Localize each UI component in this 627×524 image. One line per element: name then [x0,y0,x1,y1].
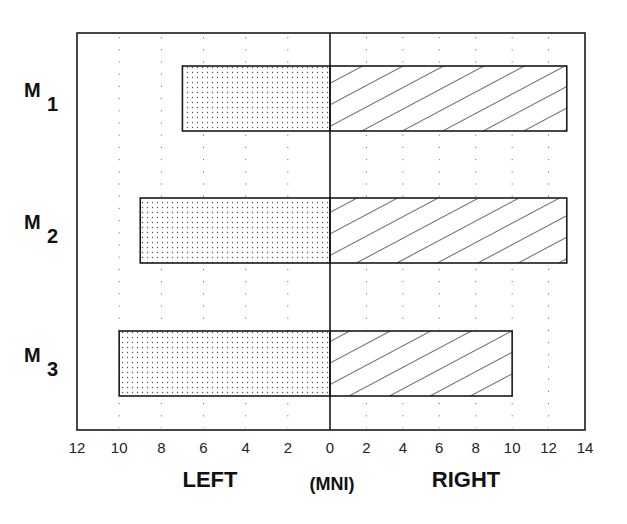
x-axis-ticks: 1210864202468101214 [69,439,594,456]
category-label: M [24,79,41,101]
x-label-left: LEFT [183,467,239,492]
bars [119,66,567,396]
x-tick-label: 4 [241,439,249,456]
category-subscript: 2 [47,225,58,247]
diverging-bar-chart: 1210864202468101214 M1M2M3 LEFT (MNI) RI… [0,0,627,524]
x-tick-label: 12 [540,439,557,456]
bar-right-m1 [330,66,567,131]
category-label: M [24,211,41,233]
x-tick-label: 0 [326,439,334,456]
bar-left-m1 [182,66,330,131]
bar-right-m3 [330,331,512,396]
x-tick-label: 6 [199,439,207,456]
category-subscript: 1 [47,93,58,115]
x-tick-label: 2 [362,439,370,456]
bar-right-m2 [330,198,567,263]
x-tick-label: 10 [111,439,128,456]
y-axis-categories: M1M2M3 [24,79,58,380]
x-tick-label: 14 [577,439,594,456]
x-tick-label: 8 [472,439,480,456]
bar-left-m2 [140,198,330,263]
x-tick-label: 10 [504,439,521,456]
x-tick-label: 2 [284,439,292,456]
x-tick-label: 6 [435,439,443,456]
x-tick-label: 4 [399,439,407,456]
x-label-unit: (MNI) [310,474,355,494]
x-tick-label: 8 [157,439,165,456]
bar-left-m3 [119,331,330,396]
x-label-right: RIGHT [432,467,501,492]
category-label: M [24,344,41,366]
x-tick-label: 12 [69,439,86,456]
category-subscript: 3 [47,358,58,380]
